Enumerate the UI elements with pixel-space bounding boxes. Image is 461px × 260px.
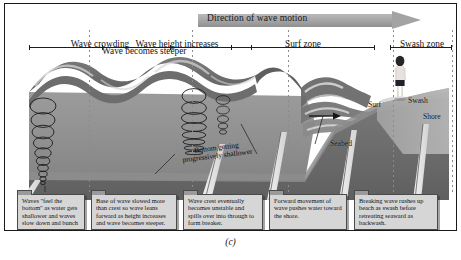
callout-tab — [269, 190, 284, 195]
zone-divider-2 — [192, 30, 193, 192]
label-surf: Surf — [368, 100, 381, 109]
zone-divider-1 — [89, 30, 90, 192]
callout-swash-backwash: Breaking wave rushes up beach as swash b… — [354, 194, 438, 230]
zone-divider-5 — [452, 30, 453, 192]
zone-divider-3 — [288, 30, 289, 192]
label-shore: Shore — [423, 112, 441, 121]
callout-crest-unstable: Wave crest eventually becomes unstable a… — [183, 194, 263, 230]
person-figure — [394, 56, 406, 101]
zone-sublabel-wave-steeper: Wave becomes steeper — [102, 46, 186, 56]
zone-header-surf-zone: Surf zone — [227, 33, 379, 44]
callout-base-slowed: Base of wave slowed more than crest so w… — [91, 194, 177, 230]
arrow-head-icon — [392, 11, 421, 29]
callout-text: Wave crest eventually becomes unstable a… — [188, 197, 259, 227]
zone-rule-surf-zone — [231, 45, 375, 50]
zone-divider-4 — [393, 30, 394, 192]
callout-text: Base of wave slowed more than crest so w… — [96, 197, 173, 227]
callout-text: Breaking wave rushes up beach as swash b… — [359, 197, 434, 227]
callout-text: Waves "feel the bottom" as water gets sh… — [22, 197, 81, 231]
direction-of-wave-motion-arrow: Direction of wave motion — [198, 12, 423, 29]
wave-breaking-diagram: Direction of wave motion Wave crowding W… — [4, 3, 457, 231]
callout-tab — [183, 190, 198, 195]
figure-caption: (c) — [0, 237, 461, 247]
zone-rule-swash-zone — [390, 45, 452, 50]
label-seabed: Seabed — [330, 139, 352, 148]
callout-tab — [91, 190, 106, 195]
label-swash: Swash — [408, 96, 428, 105]
callout-feel-bottom: Waves "feel the bottom" as water gets sh… — [17, 194, 85, 230]
callout-text: Forward movement of wave pushes water to… — [274, 197, 343, 219]
callout-tab — [17, 190, 32, 195]
direction-arrow-label: Direction of wave motion — [207, 13, 307, 23]
callout-tab — [354, 190, 369, 195]
zone-header-swash-zone: Swash zone — [386, 33, 457, 44]
callout-forward-movement: Forward movement of wave pushes water to… — [269, 194, 347, 230]
